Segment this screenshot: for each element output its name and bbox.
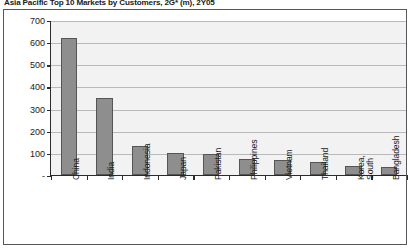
y-tick-label: - xyxy=(42,172,45,181)
gridline xyxy=(51,21,406,22)
x-tick-mark xyxy=(336,175,337,180)
category-label: Vietnam xyxy=(285,149,294,180)
y-tick-label: 500 xyxy=(30,61,45,70)
y-tick-mark xyxy=(47,154,51,155)
y-tick-mark xyxy=(47,21,51,22)
y-tick-mark xyxy=(47,43,51,44)
gridline xyxy=(51,43,406,44)
y-tick-mark xyxy=(47,132,51,133)
x-tick-mark xyxy=(193,175,194,180)
y-tick-mark xyxy=(47,110,51,111)
category-label: Japan xyxy=(179,157,188,180)
category-label: India xyxy=(107,162,116,180)
gridline xyxy=(51,65,406,66)
x-tick-mark xyxy=(265,175,266,180)
x-tick-mark xyxy=(300,175,301,180)
x-tick-mark xyxy=(407,175,408,180)
y-tick-mark xyxy=(47,87,51,88)
x-tick-mark xyxy=(229,175,230,180)
chart-title: Asia Pacific Top 10 Markets by Customers… xyxy=(4,0,408,8)
category-label: Thailand xyxy=(321,148,330,180)
x-tick-mark xyxy=(158,175,159,180)
y-tick-mark xyxy=(47,65,51,66)
gridline xyxy=(51,87,406,88)
category-label: Bangladesh xyxy=(392,136,401,180)
y-tick-label: 300 xyxy=(30,105,45,114)
chart-frame: -100200300400500600700 ChinaIndiaIndones… xyxy=(3,9,407,245)
category-label: Philippines xyxy=(250,140,259,180)
x-tick-mark xyxy=(51,175,52,180)
plot-area: -100200300400500600700 xyxy=(50,21,406,176)
y-tick-label: 100 xyxy=(30,149,45,158)
chart-figure: Asia Pacific Top 10 Markets by Customers… xyxy=(0,0,411,248)
bar xyxy=(61,38,77,175)
y-tick-label: 700 xyxy=(30,17,45,26)
x-tick-mark xyxy=(122,175,123,180)
y-tick-label: 200 xyxy=(30,127,45,136)
y-tick-label: 600 xyxy=(30,39,45,48)
category-label: Indonesia xyxy=(143,144,152,180)
category-label: Pakistan xyxy=(214,148,223,180)
category-label: China xyxy=(72,158,81,180)
x-tick-mark xyxy=(87,175,88,180)
y-tick-label: 400 xyxy=(30,83,45,92)
category-label: Korea, South xyxy=(357,155,375,180)
